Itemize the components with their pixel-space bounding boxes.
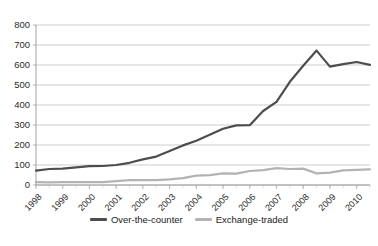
- ytick-label: 0: [25, 179, 30, 190]
- legend-swatch-icon: [90, 218, 107, 221]
- ytick-label: 700: [14, 39, 30, 50]
- ytick-label: 200: [14, 139, 30, 150]
- legend-label: Over-the-counter: [111, 214, 183, 225]
- xtick-label: 1999: [49, 192, 70, 213]
- xtick-label: 2001: [103, 192, 124, 213]
- legend-entry-2[interactable]: Exchange-traded: [195, 214, 288, 225]
- ytick-label: 100: [14, 159, 30, 170]
- xtick-label: 2008: [290, 192, 311, 213]
- ytick-label: 500: [14, 79, 30, 90]
- line-chart-plot: 0100200300400500600700800 19981999200020…: [0, 0, 378, 246]
- xtick-label: 2000: [76, 192, 97, 213]
- xtick-label: 2006: [236, 192, 257, 213]
- axis-group: [33, 25, 370, 189]
- legend-swatch-icon: [195, 218, 212, 221]
- series-line-2: [36, 168, 370, 182]
- legend-entry-1[interactable]: Over-the-counter: [90, 214, 183, 225]
- xtick-label: 1998: [23, 192, 44, 213]
- xtick-label: 2003: [156, 192, 177, 213]
- ytick-label: 600: [14, 59, 30, 70]
- gridlines-group: [36, 25, 370, 185]
- ytick-label: 400: [14, 99, 30, 110]
- xtick-label: 2004: [183, 192, 204, 213]
- ytick-labels-group: 0100200300400500600700800: [14, 19, 30, 190]
- xtick-label: 2005: [210, 192, 231, 213]
- xtick-label: 2010: [343, 192, 364, 213]
- chart-legend: Over-the-counterExchange-traded: [0, 214, 378, 225]
- xtick-labels-group: 1998199920002001200220032004200520062007…: [23, 192, 365, 213]
- xtick-label: 2007: [263, 192, 284, 213]
- ytick-label: 300: [14, 119, 30, 130]
- ytick-label: 800: [14, 19, 30, 30]
- series-group: [36, 51, 370, 183]
- chart-figure: 0100200300400500600700800 19981999200020…: [0, 0, 378, 246]
- xtick-label: 2009: [316, 192, 337, 213]
- xtick-label: 2002: [129, 192, 150, 213]
- legend-label: Exchange-traded: [216, 214, 288, 225]
- series-line-1: [36, 51, 370, 171]
